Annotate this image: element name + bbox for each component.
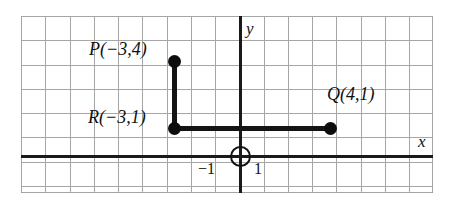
coordinate-plane-figure: y x −1 1 P(−3,4) R(−3,1) Q(4,1) xyxy=(0,0,453,207)
point-q-marker xyxy=(324,122,337,135)
point-p-label: P(−3,4) xyxy=(89,40,147,58)
grid-bottom-edge xyxy=(21,192,433,193)
x-tick-label-negative-one: −1 xyxy=(198,161,215,177)
origin-marker-icon xyxy=(230,146,251,167)
point-p-marker xyxy=(168,55,181,68)
x-axis-line xyxy=(21,155,433,158)
y-axis-label: y xyxy=(246,20,254,37)
x-tick-label-positive-one: 1 xyxy=(254,161,262,177)
segment-p-to-r xyxy=(172,62,177,130)
point-r-marker xyxy=(168,122,181,135)
grid-right-edge xyxy=(432,16,433,193)
x-axis-label: x xyxy=(418,133,426,150)
grid-background xyxy=(21,16,433,193)
point-r-label: R(−3,1) xyxy=(88,108,146,126)
point-q-label: Q(4,1) xyxy=(327,85,375,103)
segment-r-to-q xyxy=(175,126,332,131)
